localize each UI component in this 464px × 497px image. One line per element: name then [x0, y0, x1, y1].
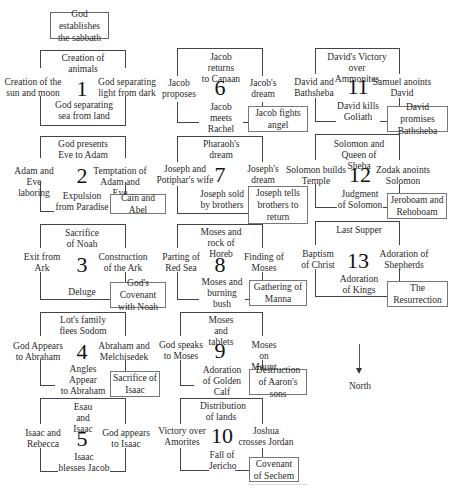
panel-4-left: God Appears to Abraham — [12, 341, 64, 363]
panel-9-left: God speaks to Moses — [158, 340, 204, 362]
panel-9-number: 9 — [212, 340, 228, 362]
panel-3-top: Sacrifice of Noah — [62, 228, 102, 250]
panel-5-bottom: Isaac blesses Jacob — [58, 452, 110, 474]
panel-12-number: 12 — [348, 164, 372, 186]
panel-3-bottom: Deluge — [65, 287, 99, 298]
north-arrow-icon — [359, 344, 360, 370]
panel-9-extra: Destruction of Aaron's sons — [249, 369, 307, 395]
panel-2-extra: Cain and Abel — [110, 194, 166, 214]
panel-10-left: Victory over Amorites — [156, 426, 208, 448]
panel-13-top: Last Supper — [336, 225, 382, 236]
panel-1-bottom: God separating sea from land — [54, 100, 114, 122]
panel-8-left: Parting of Red Sea — [161, 252, 201, 274]
panel-7-left: Joseph and Potiphar's wife — [155, 164, 215, 186]
panel-7-bottom: Joseph sold by brothers — [199, 189, 245, 211]
panel-12-left: Solomon builds Temple — [285, 165, 347, 187]
panel-3-right: Construction of the Ark — [98, 252, 148, 274]
panel-8-right: Finding of Moses — [244, 252, 284, 274]
panel-12-extra: Jeroboam and Rehoboam — [387, 193, 447, 219]
panel-10-bottom: Fall of Jericho — [209, 450, 235, 472]
panel-11-left: David and Bathsheba — [294, 77, 334, 99]
panel-8-bottom: Moses and burning bush — [199, 277, 245, 310]
panel-7-right: Joseph's dream — [247, 164, 279, 186]
panel-6-bottom: Jacob meets Rachel — [199, 102, 243, 135]
panel-5-left: Isaac and Rebecca — [24, 428, 62, 450]
panel-2-bottom: Expulsion from Paradise — [54, 191, 110, 213]
panel-13-left: Baptism of Christ — [300, 249, 336, 271]
panel-12-right: Zodak anoints Solomon — [374, 165, 432, 187]
panel-1-number: 1 — [74, 78, 90, 100]
panel-3-left: Exit from Ark — [22, 252, 62, 274]
panel-4-top: Lot's family flees Sodom — [59, 315, 107, 337]
panel-4-number: 4 — [74, 341, 90, 363]
panel-13-right: Adoration of Shepherds — [376, 249, 432, 271]
panel-13-number: 13 — [346, 250, 370, 272]
sabbath-box: God establishes the sabbath — [50, 12, 109, 39]
panel-2-top: God presents Eve to Adam — [55, 139, 111, 161]
panel-4-bottom: Angles Appear to Abraham — [55, 364, 111, 397]
panel-7-number: 7 — [212, 164, 228, 186]
panel-13-bottom: Adoration of Kings — [338, 274, 380, 296]
panel-1-left: Creation of the sun and moon — [1, 77, 65, 99]
panel-13-extra: The Resurrection — [387, 281, 448, 307]
north-label: North — [344, 381, 376, 392]
panel-7-top: Pharaoh's dream — [203, 139, 239, 161]
panel-11-right: Samuel anoints David — [371, 77, 433, 99]
panel-11-bottom: David kills Goliath — [336, 101, 380, 123]
panel-5-number: 5 — [74, 428, 90, 450]
panel-6-right: Jacob's dream — [248, 78, 278, 100]
panel-8-number: 8 — [212, 254, 228, 276]
panel-3-extra: God's Covenant with Noah — [110, 282, 166, 308]
panel-10-extra: Covenant of Sechem — [249, 457, 299, 482]
panel-1-right: God separating light from dark — [96, 77, 158, 99]
panel-12-bottom: Judgment of Solomon — [337, 189, 383, 211]
panel-6-number: 6 — [212, 77, 228, 99]
scan-artifact — [248, 484, 308, 485]
panel-5-right: God appears to Isaac — [102, 428, 150, 450]
panel-9-bottom: Adoration of Golden Calf — [194, 365, 250, 398]
panel-6-extra: Jacob fights angel — [248, 106, 308, 132]
panel-10-number: 10 — [210, 425, 234, 447]
panel-1-top: Creation of animals — [60, 53, 106, 75]
panel-4-extra: Sacrifice of Isaac — [110, 371, 160, 397]
panel-6-left: Jacob proposes — [160, 78, 198, 100]
panel-11-number: 11 — [346, 76, 370, 98]
panel-3-number: 3 — [74, 254, 90, 276]
panel-4-right: Abraham and Melchisedek — [97, 341, 151, 363]
panel-11-extra: David promises Bathsheba — [387, 106, 448, 132]
panel-7-extra: Joseph tells brothers to return — [248, 186, 308, 224]
panel-10-right: Joshua crosses Jordan — [238, 426, 294, 448]
panel-8-extra: Gathering of Manna — [249, 280, 307, 306]
panel-2-number: 2 — [74, 165, 90, 187]
panel-10-top: Distribution of lands — [200, 401, 242, 423]
